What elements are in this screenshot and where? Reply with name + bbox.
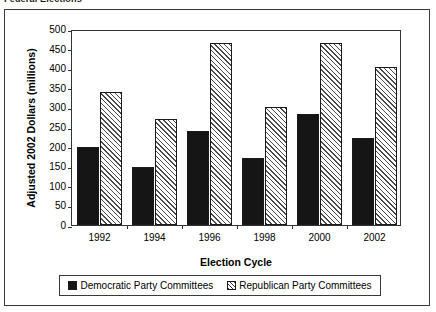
bar <box>320 43 342 225</box>
bar <box>155 119 177 225</box>
x-tick-label: 1996 <box>180 232 240 243</box>
x-tick-mark <box>127 225 128 229</box>
x-tick-mark <box>292 225 293 229</box>
legend-label-republican: Republican Party Committees <box>239 280 371 291</box>
legend-swatch-republican-icon <box>227 281 236 290</box>
bar-group <box>292 31 347 225</box>
plot-wrapper: Adjusted 2002 Dollars (millions) 0501001… <box>5 10 431 307</box>
bar-series-container <box>72 31 400 225</box>
bar-group <box>182 31 237 225</box>
bar <box>77 147 99 225</box>
x-tick-label: 2002 <box>345 232 405 243</box>
bar <box>187 131 209 225</box>
y-tick-label: 250 <box>49 122 66 133</box>
y-tick-label: 450 <box>49 44 66 55</box>
y-tick-label: 100 <box>49 181 66 192</box>
y-tick-label: 50 <box>55 200 66 211</box>
bar <box>242 158 264 225</box>
figure-frame: Adjusted 2002 Dollars (millions) 0501001… <box>4 9 430 306</box>
chart-legend: Democratic Party Committees Republican P… <box>59 275 381 296</box>
bar-group <box>347 31 402 225</box>
bar <box>132 167 154 225</box>
y-tick-label: 300 <box>49 102 66 113</box>
x-tick-label: 1992 <box>70 232 130 243</box>
bar <box>375 67 397 225</box>
x-tick-label: 1998 <box>235 232 295 243</box>
chart-screenshot: Federal Elections Adjusted 2002 Dollars … <box>0 0 436 312</box>
legend-item-republican: Republican Party Committees <box>227 280 371 291</box>
y-tick-label: 350 <box>49 83 66 94</box>
figure-caption: Federal Elections <box>4 0 82 2</box>
legend-swatch-democratic-icon <box>68 281 77 290</box>
y-tick-label: 150 <box>49 161 66 172</box>
x-tick-label: 1994 <box>125 232 185 243</box>
legend-label-democratic: Democratic Party Committees <box>80 280 213 291</box>
bar <box>297 114 319 225</box>
y-tick-mark <box>68 227 72 228</box>
bar-group <box>72 31 127 225</box>
bar <box>265 107 287 225</box>
legend-item-democratic: Democratic Party Committees <box>68 280 213 291</box>
y-tick-label: 500 <box>49 24 66 35</box>
bar <box>100 92 122 225</box>
bar <box>352 138 374 225</box>
y-axis-title: Adjusted 2002 Dollars (millions) <box>25 33 37 223</box>
bar <box>210 43 232 225</box>
y-tick-label: 200 <box>49 142 66 153</box>
y-tick-label: 0 <box>60 220 66 231</box>
x-tick-mark <box>182 225 183 229</box>
y-tick-label: 400 <box>49 63 66 74</box>
bar-group <box>127 31 182 225</box>
bar-group <box>237 31 292 225</box>
x-tick-label: 2000 <box>290 232 350 243</box>
plot-area: 050100150200250300350400450500 199219941… <box>71 30 401 226</box>
x-tick-mark <box>237 225 238 229</box>
x-axis-title: Election Cycle <box>71 256 401 268</box>
x-tick-mark <box>347 225 348 229</box>
